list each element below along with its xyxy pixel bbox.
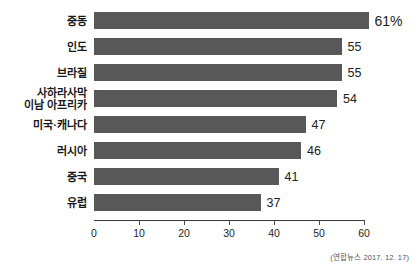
bar-chart: 중동61%인도55브라질55사하라사막이남 아프리카54미국·캐나다47러시아4…	[0, 0, 418, 267]
bar-row: 인도55	[94, 34, 364, 60]
category-label: 인도	[67, 34, 87, 60]
category-label: 브라질	[57, 60, 87, 86]
bar-row: 중동61%	[94, 8, 364, 34]
bar-value-label: 47	[312, 112, 326, 138]
bar-row: 러시아46	[94, 138, 364, 164]
category-label-line: 중국	[67, 171, 87, 183]
bar-value-label: 55	[348, 60, 362, 86]
x-axis-tick-label: 30	[223, 227, 235, 239]
x-axis-tick	[139, 220, 140, 225]
category-label-line: 유럽	[67, 197, 87, 209]
bar-value-label: 54	[343, 86, 357, 112]
x-axis-tick-label: 40	[268, 227, 280, 239]
bar	[94, 194, 261, 211]
category-label: 유럽	[67, 190, 87, 216]
x-axis-tick-label: 60	[358, 227, 370, 239]
x-axis-tick	[184, 220, 185, 225]
x-axis-tick-label: 0	[91, 227, 97, 239]
category-label: 사하라사막이남 아프리카	[24, 86, 87, 112]
bar-value-label: 55	[348, 34, 362, 60]
bar	[94, 168, 279, 185]
x-axis-tick-label: 50	[313, 227, 325, 239]
category-label: 중국	[67, 164, 87, 190]
bar-row: 브라질55	[94, 60, 364, 86]
category-label-line: 인도	[67, 41, 87, 53]
category-label: 러시아	[57, 138, 87, 164]
source-attribution: (연합뉴스 2017. 12. 17)	[330, 251, 409, 262]
category-label-line: 브라질	[57, 67, 87, 79]
bar-value-label: 61%	[375, 8, 403, 34]
bar-row: 중국41	[94, 164, 364, 190]
category-label-line: 이남 아프리카	[24, 99, 87, 111]
bar-row: 사하라사막이남 아프리카54	[94, 86, 364, 112]
bar	[94, 90, 337, 107]
plot-area: 중동61%인도55브라질55사하라사막이남 아프리카54미국·캐나다47러시아4…	[94, 8, 364, 220]
x-axis-tick	[364, 220, 365, 225]
bar	[94, 12, 369, 29]
x-axis-tick	[274, 220, 275, 225]
bar-value-label: 46	[307, 138, 321, 164]
bar	[94, 38, 342, 55]
x-axis-tick	[229, 220, 230, 225]
x-axis-tick	[319, 220, 320, 225]
bar-value-label: 37	[267, 190, 281, 216]
bar	[94, 142, 301, 159]
bar	[94, 116, 306, 133]
x-axis-tick-label: 20	[178, 227, 190, 239]
category-label-line: 미국·캐나다	[33, 119, 87, 131]
x-axis-tick-label: 10	[133, 227, 145, 239]
category-label-line: 중동	[67, 15, 87, 27]
category-label-line: 러시아	[57, 145, 87, 157]
category-label: 미국·캐나다	[33, 112, 87, 138]
bar	[94, 64, 342, 81]
bar-row: 미국·캐나다47	[94, 112, 364, 138]
bar-row: 유럽37	[94, 190, 364, 216]
category-label: 중동	[67, 8, 87, 34]
bar-value-label: 41	[285, 164, 299, 190]
category-label-line: 사하라사막	[37, 87, 87, 99]
